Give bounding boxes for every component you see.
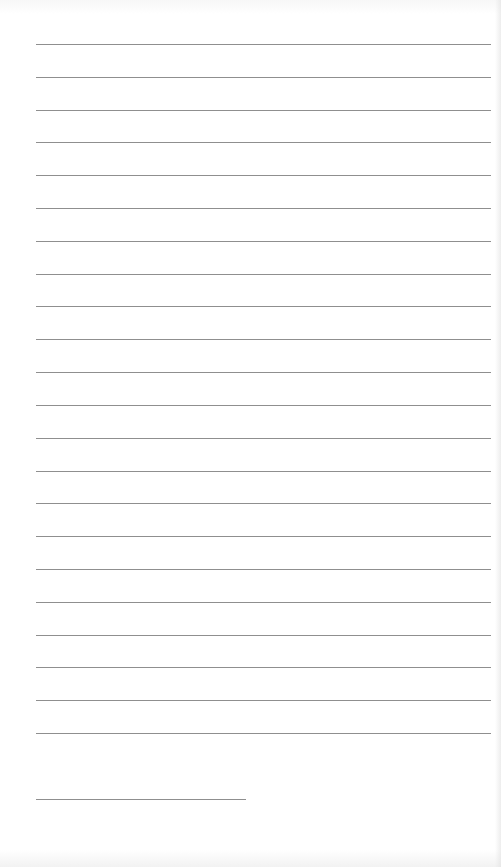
- ruled-line: [36, 274, 491, 275]
- ruled-line: [36, 44, 491, 45]
- ruled-page: [0, 0, 501, 867]
- ruled-line: [36, 733, 491, 734]
- ruled-line: [36, 339, 491, 340]
- ruled-line: [36, 438, 491, 439]
- ruled-line: [36, 667, 491, 668]
- ruled-line: [36, 110, 491, 111]
- ruled-line: [36, 306, 491, 307]
- ruled-line: [36, 372, 491, 373]
- ruled-line: [36, 405, 491, 406]
- ruled-line: [36, 569, 491, 570]
- ruled-line: [36, 241, 491, 242]
- ruled-line: [36, 175, 491, 176]
- ruled-line: [36, 142, 491, 143]
- ruled-line: [36, 208, 491, 209]
- ruled-line: [36, 536, 491, 537]
- footnote-separator-rule: [36, 799, 246, 800]
- ruled-line: [36, 700, 491, 701]
- ruled-line: [36, 471, 491, 472]
- ruled-line: [36, 503, 491, 504]
- ruled-line: [36, 602, 491, 603]
- ruled-line: [36, 635, 491, 636]
- ruled-line: [36, 77, 491, 78]
